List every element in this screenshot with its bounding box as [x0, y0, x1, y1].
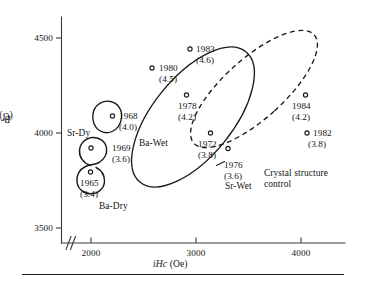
- point-value-1968: (4.0): [119, 122, 138, 133]
- point-label-1983: 1983 (4.6): [196, 44, 215, 65]
- data-point-1969: [89, 146, 93, 150]
- point-label-1984: 1984 (4.2): [292, 101, 311, 122]
- point-label-1972: 1972 (3.8): [198, 139, 217, 160]
- x-tick-label-4000: 4000: [286, 248, 316, 259]
- x-axis-title-symbol: iHc: [153, 258, 167, 269]
- point-label-1976: 1976 (3.6): [224, 160, 243, 181]
- point-year-1968: 1968: [119, 111, 138, 122]
- point-year-1980: 1980: [159, 63, 178, 74]
- y-tick-label-4500: 4500: [20, 33, 53, 44]
- point-label-1978: 1978 (4.2): [178, 101, 197, 122]
- point-year-1982: 1982: [313, 128, 332, 139]
- point-label-1968: 1968 (4.0): [119, 111, 138, 132]
- y-axis-title-unit: (G): [0, 111, 13, 122]
- crystal-control-line1: Crystal structure: [264, 168, 328, 179]
- x-tick-label-3000: 3000: [181, 248, 211, 259]
- point-label-1965: 1965 (3.4): [80, 178, 99, 199]
- group-label-ba-wet: Ba-Wet: [139, 138, 168, 149]
- point-value-1983: (4.6): [196, 55, 215, 66]
- data-point-1984: [303, 93, 307, 97]
- point-value-1976: (3.6): [224, 171, 243, 182]
- point-year-1978: 1978: [178, 101, 197, 112]
- point-value-1972: (3.8): [198, 150, 217, 161]
- crystal-control-line2: control: [264, 179, 328, 190]
- point-year-1984: 1984: [292, 101, 311, 112]
- cluster-outline-1969: [79, 137, 106, 165]
- data-point-1968: [110, 114, 114, 118]
- point-value-1965: (3.4): [80, 189, 99, 200]
- group-label-sr-wet: Sr-Wet: [225, 181, 252, 192]
- y-tick-label-4000: 4000: [20, 128, 53, 139]
- data-point-1972: [208, 131, 212, 135]
- point-year-1969: 1969: [112, 143, 131, 154]
- caption-divider-rule: [22, 274, 344, 275]
- x-tick-label-2000: 2000: [76, 248, 106, 259]
- point-value-1980: (4.5): [159, 74, 178, 85]
- data-point-1980: [150, 66, 154, 70]
- y-tick-label-3500: 3500: [20, 223, 53, 234]
- point-value-1984: (4.2): [292, 112, 311, 123]
- point-label-1969: 1969 (3.6): [112, 143, 131, 164]
- point-value-1969: (3.6): [112, 154, 131, 165]
- data-point-1965: [88, 170, 92, 174]
- group-label-sr-dy: Sr-Dy: [67, 128, 90, 139]
- cluster-outline-sr-dy: [93, 101, 122, 132]
- x-axis-ticks: [91, 238, 301, 244]
- data-point-1978: [184, 93, 188, 97]
- data-point-1976: [226, 146, 230, 150]
- group-label-ba-dry: Ba-Dry: [99, 201, 128, 212]
- point-value-1978: (4.2): [178, 112, 197, 123]
- y-axis-ticks: [56, 38, 62, 228]
- data-point-1982: [305, 131, 309, 135]
- point-label-1982: 1982 (3.8): [313, 128, 332, 149]
- data-point-1983: [188, 47, 192, 51]
- point-label-1980: 1980 (4.5): [159, 63, 178, 84]
- point-value-1982: (3.8): [308, 139, 332, 150]
- point-year-1976: 1976: [224, 160, 243, 171]
- point-year-1983: 1983: [196, 44, 215, 55]
- figure-panel: 4500 4000 3500 2000 3000 4000 iHc(Oe) Br…: [0, 0, 366, 285]
- x-axis-title-unit: (Oe): [170, 258, 188, 269]
- point-year-1965: 1965: [80, 178, 99, 189]
- group-label-crystal-structure-control: Crystal structure control: [264, 168, 328, 189]
- x-axis-title: iHc(Oe): [153, 259, 188, 270]
- point-year-1972: 1972: [198, 139, 217, 150]
